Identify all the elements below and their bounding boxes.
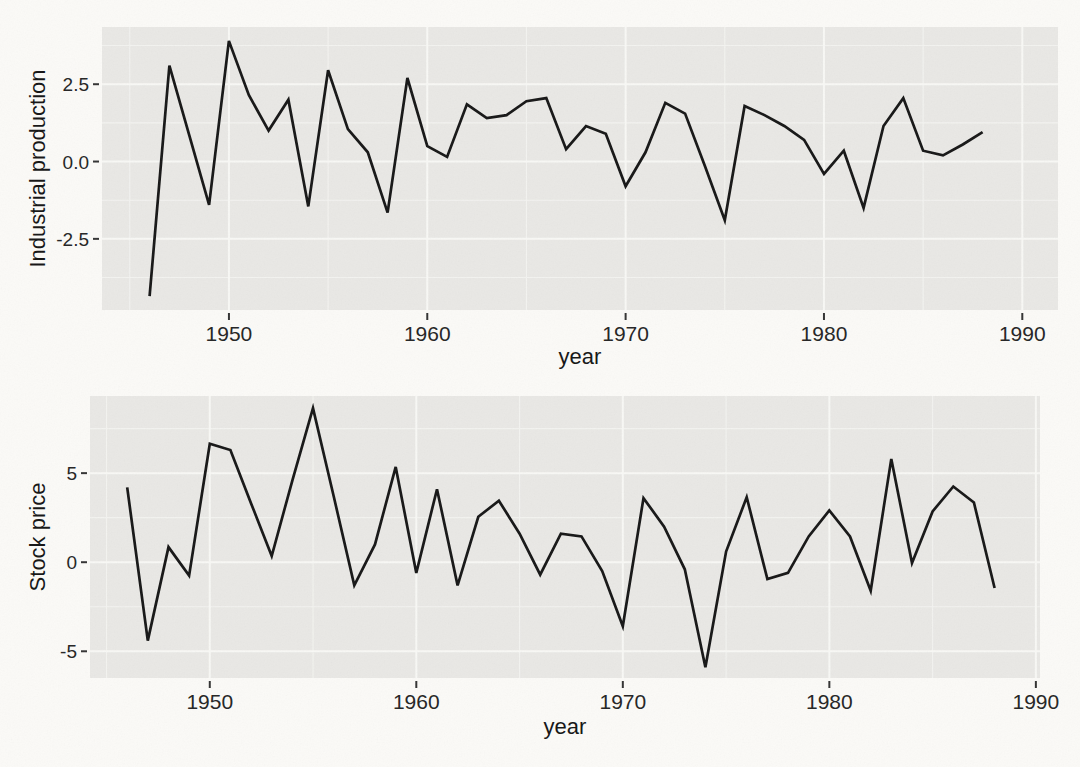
- industrial-production-chart: 195019601970198019902.50.0-2.5 Industria…: [0, 0, 1080, 378]
- scan-noise-overlay: [0, 378, 1080, 767]
- stock-price-plot: 1950196019701980199050-5 Stock price yea…: [0, 378, 1080, 767]
- scan-noise-overlay: [0, 0, 1080, 378]
- industrial-production-plot: 195019601970198019902.50.0-2.5 Industria…: [0, 0, 1080, 378]
- figure-page: 195019601970198019902.50.0-2.5 Industria…: [0, 0, 1080, 767]
- stock-price-chart: 1950196019701980199050-5 Stock price yea…: [0, 378, 1080, 767]
